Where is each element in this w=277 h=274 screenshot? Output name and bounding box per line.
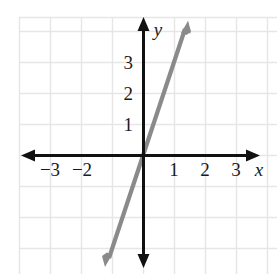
coordinate-plane-graph: −3 −2 1 2 3 1 2 3 y x xyxy=(0,0,277,274)
x-tick-label-neg3: −3 xyxy=(40,159,60,180)
plotted-line-group xyxy=(102,21,191,267)
y-axis-arrow-up xyxy=(138,17,150,31)
y-tick-label-2: 2 xyxy=(124,83,134,104)
y-tick-label-3: 3 xyxy=(124,52,134,73)
y-axis-label: y xyxy=(152,19,163,40)
axis-arrowheads xyxy=(21,17,260,268)
x-axis-label: x xyxy=(254,159,264,180)
x-axis-arrow-left xyxy=(21,150,35,162)
y-axis-arrow-down xyxy=(138,254,150,268)
y-tick-label-1: 1 xyxy=(124,114,134,135)
x-tick-label-3: 3 xyxy=(231,159,241,180)
line-y-equals-3x xyxy=(109,29,185,258)
x-tick-label-1: 1 xyxy=(169,159,179,180)
graph-canvas: −3 −2 1 2 3 1 2 3 y x xyxy=(0,0,277,274)
axes-group xyxy=(26,23,254,262)
x-tick-label-neg2: −2 xyxy=(72,159,92,180)
line-arrowhead-lower xyxy=(102,253,112,268)
x-tick-label-2: 2 xyxy=(200,159,210,180)
